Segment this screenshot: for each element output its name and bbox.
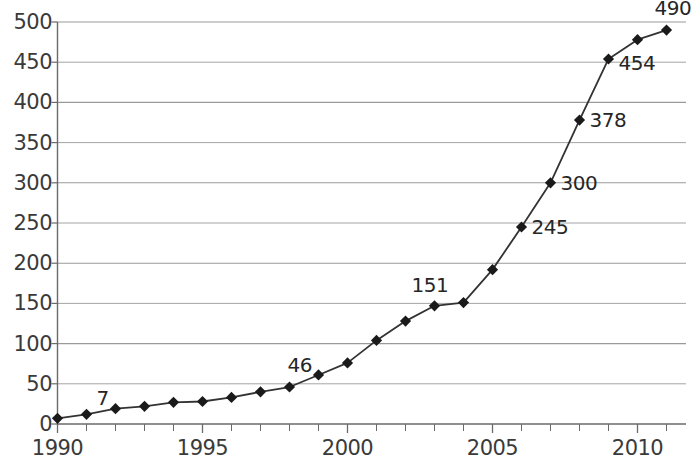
data-point-value-label: 378 <box>590 110 627 130</box>
data-point-marker <box>284 381 295 392</box>
data-point-marker <box>429 300 440 311</box>
y-axis-tick-label: 200 <box>0 253 52 274</box>
y-axis-tick-label: 150 <box>0 293 52 314</box>
data-point-marker <box>139 401 150 412</box>
data-point-marker <box>574 114 585 125</box>
line-chart: 050100150200250300350400450500 199019952… <box>0 0 692 464</box>
x-axis-tick-label: 2010 <box>598 438 678 459</box>
data-point-value-label: 151 <box>412 275 449 295</box>
data-point-marker <box>545 177 556 188</box>
y-axis-tick-label: 50 <box>0 374 52 395</box>
data-point-marker <box>110 403 121 414</box>
gridlines <box>58 22 687 384</box>
data-point-marker <box>661 24 672 35</box>
data-point-marker <box>255 386 266 397</box>
data-point-marker <box>52 413 63 424</box>
x-axis-tick-label: 2005 <box>453 438 533 459</box>
data-point-value-label: 7 <box>97 388 109 408</box>
data-point-value-label: 46 <box>288 355 312 375</box>
axis-lines <box>58 22 687 425</box>
y-axis-tick-label: 250 <box>0 213 52 234</box>
y-axis-tick-label: 100 <box>0 334 52 355</box>
y-axis-tick-label: 350 <box>0 133 52 154</box>
data-point-value-label: 300 <box>561 173 598 193</box>
data-point-marker <box>226 392 237 403</box>
series-path <box>58 30 667 418</box>
y-axis-tick-label: 500 <box>0 12 52 33</box>
data-point-marker <box>81 409 92 420</box>
data-point-marker <box>168 397 179 408</box>
data-point-value-label: 245 <box>532 217 569 237</box>
data-series-markers <box>52 24 672 424</box>
data-point-value-label: 454 <box>619 53 656 73</box>
data-point-marker <box>197 396 208 407</box>
data-point-value-label: 490 <box>655 0 692 18</box>
y-axis-tick-label: 300 <box>0 173 52 194</box>
data-point-marker <box>400 315 411 326</box>
y-axis-tick-label: 400 <box>0 92 52 113</box>
x-axis-tick-label: 2000 <box>308 438 388 459</box>
data-point-marker <box>632 34 643 45</box>
x-axis-ticks <box>58 424 667 433</box>
data-series-line <box>58 30 667 418</box>
x-axis-tick-label: 1990 <box>18 438 98 459</box>
x-axis-tick-label: 1995 <box>163 438 243 459</box>
y-axis-ticks <box>52 22 58 424</box>
y-axis-tick-label: 450 <box>0 52 52 73</box>
data-point-marker <box>603 53 614 64</box>
y-axis-tick-label: 0 <box>0 414 52 435</box>
data-point-marker <box>313 369 324 380</box>
